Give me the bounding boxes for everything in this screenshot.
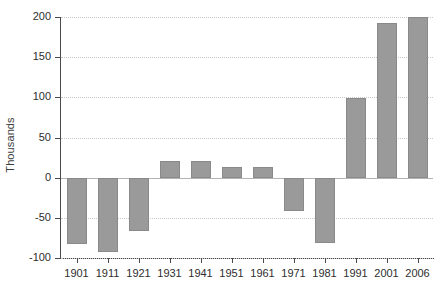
x-axis-tick	[418, 258, 419, 263]
gridline	[61, 17, 433, 18]
x-axis-tick-label: 1941	[188, 267, 212, 279]
x-axis-tick-label: 1981	[312, 267, 336, 279]
x-axis-tick-label: 1951	[219, 267, 243, 279]
bar	[98, 178, 118, 252]
bar	[67, 178, 87, 245]
x-axis-tick-label: 1921	[126, 267, 150, 279]
bar	[408, 17, 428, 178]
y-axis-tick	[55, 97, 60, 98]
x-axis-tick	[77, 258, 78, 263]
x-axis-tick-label: 1991	[343, 267, 367, 279]
x-axis-tick	[139, 258, 140, 263]
y-axis-tick-label: 200	[0, 10, 51, 22]
x-axis-tick	[232, 258, 233, 263]
x-axis-tick	[387, 258, 388, 263]
x-axis-tick	[294, 258, 295, 263]
bar	[129, 178, 149, 232]
x-axis-tick	[201, 258, 202, 263]
y-axis-title: Thousands	[0, 0, 20, 289]
x-axis-tick-label: 2006	[405, 267, 429, 279]
bar	[222, 167, 242, 177]
bar	[253, 167, 273, 177]
y-axis-tick-label: -100	[0, 251, 51, 263]
bar	[191, 161, 211, 178]
bar	[346, 98, 366, 178]
y-axis-tick	[55, 17, 60, 18]
y-axis-tick-label: -50	[0, 211, 51, 223]
bar	[160, 161, 180, 178]
y-axis-tick	[55, 258, 60, 259]
x-axis-tick	[263, 258, 264, 263]
y-axis-tick	[55, 138, 60, 139]
y-axis-tick	[55, 218, 60, 219]
y-axis-tick-label: 100	[0, 90, 51, 102]
y-axis-tick-label: 0	[0, 171, 51, 183]
bar	[284, 178, 304, 211]
y-axis-title-text: Thousands	[4, 117, 16, 172]
x-axis-tick-label: 1971	[281, 267, 305, 279]
x-axis-tick-label: 1961	[250, 267, 274, 279]
x-axis-tick	[356, 258, 357, 263]
bar	[315, 178, 335, 243]
x-axis-tick	[170, 258, 171, 263]
x-axis-tick-label: 2001	[374, 267, 398, 279]
y-axis-tick-label: 50	[0, 131, 51, 143]
x-axis-tick	[108, 258, 109, 263]
x-axis-tick-label: 1911	[96, 267, 120, 279]
y-axis-tick-label: 150	[0, 50, 51, 62]
plot-area	[61, 17, 433, 258]
x-axis-tick-label: 1931	[157, 267, 181, 279]
y-axis-tick	[55, 178, 60, 179]
bar-chart: Thousands 200150100500-50-100 1901191119…	[0, 0, 441, 289]
y-axis-tick	[55, 57, 60, 58]
gridline	[61, 258, 433, 259]
bar	[377, 23, 397, 178]
x-axis-tick	[325, 258, 326, 263]
x-axis-tick-label: 1901	[64, 267, 88, 279]
